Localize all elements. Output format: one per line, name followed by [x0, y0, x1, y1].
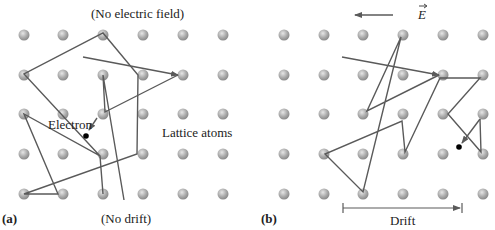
drift-label: Drift: [390, 213, 415, 229]
electric-field-label: E: [418, 7, 426, 23]
electron-dot-a: [83, 133, 89, 139]
lattice-atoms-label: Lattice atoms: [162, 125, 232, 141]
panel-a-tag: (a): [2, 211, 17, 227]
no-drift-caption: (No drift): [101, 211, 151, 227]
drift-indicator: [343, 203, 462, 213]
diagram-canvas: [0, 0, 495, 230]
panel-a-title: (No electric field): [91, 6, 184, 22]
panel-b-tag: (b): [261, 211, 277, 227]
lattice-atoms-b: [279, 30, 489, 200]
electron-label: Electron: [48, 117, 92, 133]
electron-dot-b: [456, 144, 462, 150]
